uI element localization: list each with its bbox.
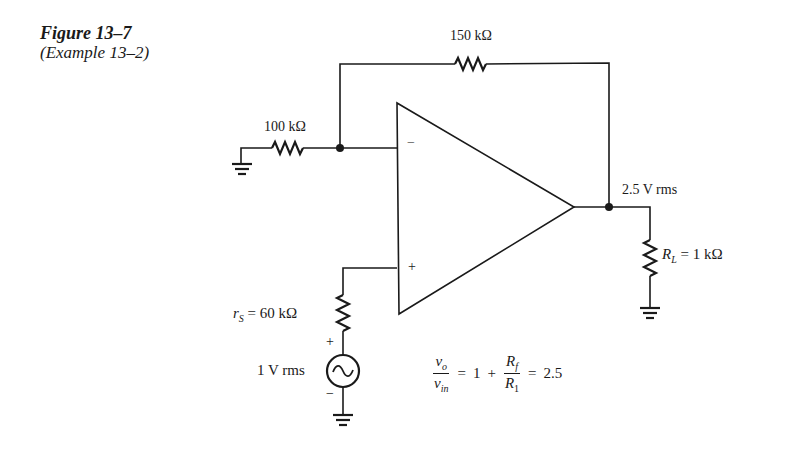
vin-subscript: in [441,383,449,394]
input-resistor-network [241,142,397,160]
feedback-resistor-label: 150 kΩ [450,28,492,44]
vo-subscript: o [442,361,447,372]
load-value: = 1 kΩ [680,246,722,262]
gain-equation: vo vin = 1 + Rf R1 = 2.5 [432,353,562,394]
opamp-symbol [397,103,574,314]
source-r-value: = 60 kΩ [248,305,298,321]
gain-result: 2.5 [544,365,563,382]
sine-wave-icon [333,366,353,376]
input-resistor-zigzag [272,142,303,154]
circuit-schematic [0,0,795,451]
equals-sign-2: = [528,365,536,382]
load-subscript: L [671,254,677,265]
source-network [327,268,397,415]
output-voltage-label: 2.5 V rms [622,182,677,198]
source-resistor-label: rS = 60 kΩ [233,305,297,324]
feedback-resistor-zigzag [455,58,486,70]
vo-over-vin: vo vin [432,353,450,394]
source-voltage-label: 1 V rms [257,362,305,379]
r1-symbol: R [505,375,514,391]
rf-subscript: f [515,361,518,372]
load-resistor-label: RL = 1 kΩ [662,246,723,265]
r1-subscript: 1 [514,383,519,394]
ground-icon [232,160,252,174]
junction-dot [336,144,344,152]
input-resistor-label: 100 kΩ [264,119,306,135]
rf-symbol: R [506,353,515,369]
vin-symbol: v [434,375,441,391]
equals-sign: = [457,365,465,382]
load-resistor-network [609,207,656,308]
noninverting-input-sign: + [408,259,416,275]
rf-over-r1: Rf R1 [503,353,521,394]
load-resistor-zigzag [644,240,656,276]
feedback-network [340,58,609,207]
source-r-subscript: S [239,313,244,324]
plus-sign: + [487,365,495,382]
source-resistor-zigzag [337,295,349,331]
ground-icon [640,308,660,318]
ground-icon [333,415,353,425]
source-minus-sign: − [326,386,334,402]
load-symbol: R [662,246,671,262]
source-plus-sign: + [326,334,334,350]
constant-one: 1 [473,365,481,382]
inverting-input-sign: − [407,135,415,151]
